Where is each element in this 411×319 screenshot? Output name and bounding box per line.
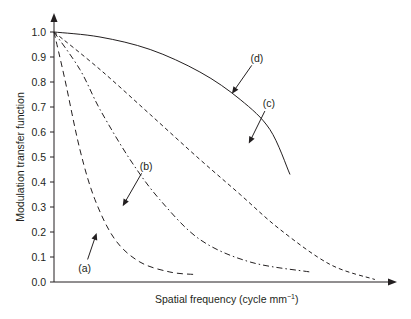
y-tick-label: 1.0 [31,26,46,38]
y-tick-label: 0.2 [31,226,46,238]
y-axis-ticks: 0.00.10.20.30.40.50.60.70.80.91.0 [31,26,54,288]
annotation-arrowhead [232,86,238,93]
y-tick-label: 0.9 [31,51,46,63]
x-axis-title-suffix: ) [295,293,299,305]
x-axis-title-superscript: −1 [287,293,295,300]
annotation-arrowhead [92,233,98,241]
x-axis-title: Spatial frequency (cycle mm−1) [155,293,298,305]
curve-label-c: (c) [263,97,275,109]
series-line-a [54,32,195,275]
y-tick-label: 0.3 [31,201,46,213]
y-axis-arrowhead [51,13,58,22]
y-tick-label: 0.4 [31,176,46,188]
curve-label-a: (a) [78,262,91,274]
series-line-b [54,32,310,272]
y-tick-label: 0.8 [31,76,46,88]
y-tick-label: 0.0 [31,276,46,288]
annotation-arrowhead [123,199,129,207]
x-axis-arrowhead [388,279,397,286]
series-line-c [54,32,375,280]
x-axis-title-main: Spatial frequency (cycle mm [155,293,287,305]
y-tick-label: 0.5 [31,151,46,163]
annotation-arrow-line [88,238,95,260]
curve-label-b: (b) [140,160,153,172]
y-tick-label: 0.6 [31,126,46,138]
annotation-arrow-line [125,173,141,201]
series-layer [54,32,375,280]
mtf-chart: 0.00.10.20.30.40.50.60.70.80.91.0 (a)(b)… [0,0,411,319]
y-tick-label: 0.7 [31,101,46,113]
annotation-arrow-line [235,65,252,89]
y-axis-title: Modulation transfer function [14,92,26,222]
annotation-layer: (a)(b)(c)(d) [78,52,275,274]
curve-label-d: (d) [250,52,263,64]
y-tick-label: 0.1 [31,251,46,263]
